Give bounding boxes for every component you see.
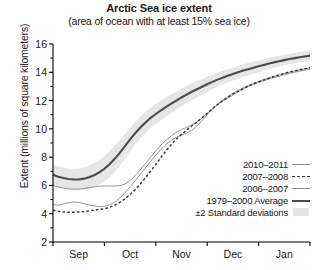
legend-label: 2007–2008 bbox=[242, 171, 292, 182]
chart-legend: 2010–20112007–20082006–20071979–2000 Ave… bbox=[195, 158, 310, 218]
legend-item[interactable]: ±2 Standard deviations bbox=[195, 206, 310, 218]
plot-area bbox=[0, 0, 318, 270]
legend-sample-thick-line bbox=[292, 195, 310, 205]
legend-item[interactable]: 2007–2008 bbox=[195, 170, 310, 182]
legend-item[interactable]: 2006–2007 bbox=[195, 182, 310, 194]
legend-sample-thin-line bbox=[292, 183, 310, 193]
legend-label: 2010–2011 bbox=[243, 159, 292, 170]
legend-label: ±2 Standard deviations bbox=[195, 207, 292, 218]
legend-item[interactable]: 1979–2000 Average bbox=[195, 194, 310, 206]
legend-sample-thin-line bbox=[292, 159, 310, 169]
legend-label: 1979–2000 Average bbox=[207, 195, 292, 206]
legend-swatch-mark bbox=[293, 208, 309, 216]
legend-swatch-mark bbox=[292, 200, 310, 202]
legend-item[interactable]: 2010–2011 bbox=[195, 158, 310, 170]
legend-swatch-mark bbox=[292, 176, 310, 177]
legend-sample-band-swatch bbox=[292, 207, 310, 217]
arctic-sea-ice-chart: Arctic Sea ice extent (area of ocean wit… bbox=[0, 0, 318, 270]
legend-label: 2006–2007 bbox=[242, 183, 292, 194]
legend-swatch-mark bbox=[292, 188, 310, 189]
legend-swatch-mark bbox=[292, 164, 310, 165]
legend-sample-dashed-line bbox=[292, 171, 310, 181]
